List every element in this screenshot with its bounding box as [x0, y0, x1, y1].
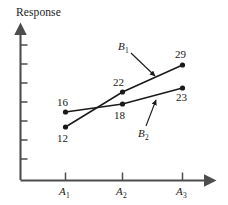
- x-tick-label-a2: A2: [116, 186, 126, 197]
- data-label-b2-a2: 18: [114, 110, 125, 121]
- data-point-b1-a3: [180, 62, 185, 67]
- plot-canvas: [0, 0, 228, 205]
- data-label-b2-a3: 23: [176, 92, 187, 103]
- x-axis: [21, 173, 207, 181]
- x-tick-a1-base: A: [59, 185, 66, 197]
- data-label-b1-a3: 29: [175, 49, 186, 60]
- series-label-b2-subscript: 2: [145, 133, 149, 142]
- interaction-plot-figure: Response 16 12 22 18 29 23 B1 B2 A1 A2 A…: [0, 0, 228, 205]
- x-tick-a2-subscript: 2: [123, 191, 127, 200]
- b2-annotation-arrow: [146, 100, 156, 126]
- x-tick-a3-subscript: 3: [183, 191, 187, 200]
- b1-annotation-arrow: [131, 53, 155, 76]
- data-point-b2-a2: [120, 101, 125, 106]
- x-tick-a2-base: A: [116, 185, 123, 197]
- data-label-b2-a1: 16: [57, 97, 68, 108]
- x-tick-a3-base: A: [176, 185, 183, 197]
- data-point-b1-a2: [120, 89, 125, 94]
- x-tick-label-a1: A1: [59, 186, 69, 197]
- data-label-b1-a2: 22: [113, 77, 124, 88]
- series-label-b1: B1: [118, 41, 128, 52]
- y-axis-title: Response: [16, 7, 61, 19]
- data-label-b1-a1: 12: [57, 133, 68, 144]
- series-label-b1-subscript: 1: [125, 46, 129, 55]
- x-axis-ticks: [66, 173, 183, 181]
- data-point-b2-a1: [63, 109, 68, 114]
- data-point-b2-a3: [180, 85, 185, 90]
- y-axis: [21, 33, 28, 180]
- series-label-b2: B2: [138, 128, 148, 139]
- x-tick-a1-subscript: 1: [66, 191, 70, 200]
- x-tick-label-a3: A3: [176, 186, 186, 197]
- series-label-b2-base: B: [138, 127, 145, 139]
- series-label-b1-base: B: [118, 40, 125, 52]
- data-point-b1-a1: [63, 124, 68, 129]
